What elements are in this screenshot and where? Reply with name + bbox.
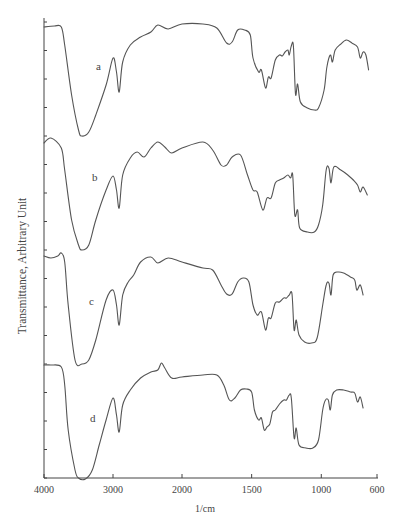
curve-label-d: d <box>90 412 96 424</box>
x-tick-label: 4000 <box>34 484 54 495</box>
curve-label-b: b <box>92 171 98 183</box>
x-tick-label: 2000 <box>172 484 192 495</box>
curve-label-a: a <box>96 60 101 72</box>
ftir-spectra-plot <box>0 0 396 526</box>
x-tick-label: 3000 <box>103 484 123 495</box>
x-tick-label: 600 <box>370 484 385 495</box>
x-tick-label: 1500 <box>242 484 262 495</box>
x-tick-label: 1000 <box>311 484 331 495</box>
x-axis <box>44 474 378 478</box>
curve-label-c: c <box>89 295 94 307</box>
spectrum-curve-c <box>44 253 363 366</box>
x-axis-label: 1/cm <box>195 503 215 514</box>
spectrum-curve-a <box>44 23 369 136</box>
x-axis-ticks <box>44 474 377 478</box>
y-axis <box>44 18 47 478</box>
y-axis-label: Transmittance, Arbitrary Unit <box>16 166 28 366</box>
spectrum-curve-b <box>44 138 367 250</box>
